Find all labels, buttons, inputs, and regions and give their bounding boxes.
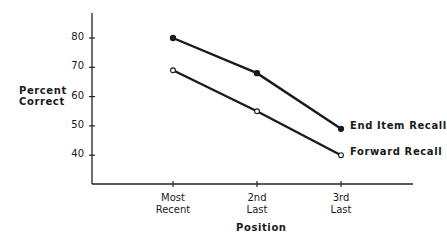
x-tick-label: 3rdLast <box>316 192 366 216</box>
x-tick-label-line: Most <box>148 192 198 204</box>
filled-circle-marker <box>254 71 259 76</box>
open-circle-marker <box>339 153 344 158</box>
legend-label: End Item Recall <box>350 120 447 131</box>
x-tick-label: MostRecent <box>148 192 198 216</box>
x-tick-label-line: Recent <box>148 204 198 216</box>
y-tick-label: 80 <box>60 31 84 42</box>
y-tick-label: 60 <box>60 90 84 101</box>
filled-circle-marker <box>338 126 343 131</box>
open-circle-marker <box>171 68 176 73</box>
y-tick-label: 70 <box>60 60 84 71</box>
x-tick-label-line: 2nd <box>232 192 282 204</box>
x-tick-label-line: Last <box>316 204 366 216</box>
open-circle-marker <box>255 109 260 114</box>
legend-label: Forward Recall <box>350 146 442 157</box>
x-tick-label-line: Last <box>232 204 282 216</box>
filled-circle-marker <box>170 35 175 40</box>
series-lines <box>170 35 343 157</box>
y-tick-label: 40 <box>60 148 84 159</box>
y-tick-label: 50 <box>60 119 84 130</box>
x-axis-title: Position <box>236 222 287 233</box>
x-tick-label: 2ndLast <box>232 192 282 216</box>
x-tick-label-line: 3rd <box>316 192 366 204</box>
